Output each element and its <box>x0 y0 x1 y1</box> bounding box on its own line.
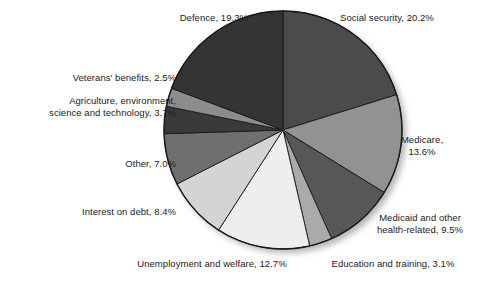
slice-label-education-training: Education and training, 3.1% <box>304 258 482 270</box>
slice-label-unemployment-welfare: Unemployment and welfare, 12.7% <box>112 258 312 270</box>
slice-label-interest-on-debt: Interest on debt, 8.4% <box>28 206 176 218</box>
slice-label-social-security: Social security, 20.2% <box>340 12 480 24</box>
slice-label-medicare: Medicare, 13.6% <box>370 134 474 159</box>
slice-label-agriculture: Agriculture, environment, science and te… <box>8 95 176 120</box>
pie-chart: Defence, 19.3% Social security, 20.2% Ve… <box>0 0 484 283</box>
slice-label-other: Other, 7.0% <box>60 158 176 170</box>
slice-label-defence: Defence, 19.3% <box>118 12 248 24</box>
slice-label-medicaid: Medicaid and other health-related, 9.5% <box>360 212 480 237</box>
slice-label-veterans-benefits: Veterans' benefits, 2.5% <box>24 72 176 84</box>
